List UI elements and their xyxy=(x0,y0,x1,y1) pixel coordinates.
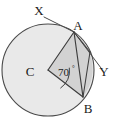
geometry-figure-container: C A B X Y 70 ° xyxy=(0,0,116,126)
label-angle-degree-symbol: ° xyxy=(72,64,75,72)
circle-diagram-svg: C A B X Y 70 ° xyxy=(0,0,116,126)
label-point-b: B xyxy=(84,101,93,116)
label-angle-value: 70 xyxy=(58,66,70,78)
label-point-y: Y xyxy=(99,64,109,79)
label-point-x: X xyxy=(34,3,44,18)
label-point-c: C xyxy=(26,64,35,79)
label-point-a: A xyxy=(73,18,83,33)
